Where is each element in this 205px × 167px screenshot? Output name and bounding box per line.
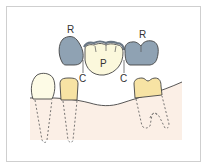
- label-retainer-right: R: [139, 29, 146, 40]
- retainer-right: [125, 41, 158, 65]
- dental-bridge-diagram: R R P C C: [0, 0, 205, 167]
- label-connector-left: C: [79, 73, 86, 84]
- retainer-left: [59, 37, 83, 66]
- natural-tooth-abutment-left: [60, 78, 78, 100]
- natural-tooth-abutment-right: [134, 78, 162, 98]
- label-pontic: P: [100, 58, 107, 69]
- label-retainer-left: R: [67, 24, 74, 35]
- natural-tooth-left: [31, 73, 54, 99]
- label-connector-right: C: [120, 73, 127, 84]
